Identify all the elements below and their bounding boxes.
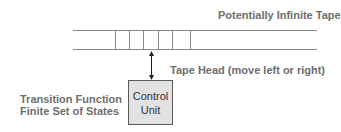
- tape-head-label: Tape Head (move left or right): [170, 64, 325, 76]
- tape-title: Potentially Infinite Tape: [218, 9, 341, 21]
- transition-function-label: Transition Function: [20, 93, 122, 105]
- tape-head-arrow: [149, 51, 154, 80]
- finite-states-label: Finite Set of States: [20, 105, 119, 117]
- tape: [73, 30, 317, 50]
- control-unit-line1: Control: [133, 89, 168, 103]
- control-unit-label: Control Unit: [128, 80, 173, 125]
- control-unit-line2: Unit: [141, 103, 161, 117]
